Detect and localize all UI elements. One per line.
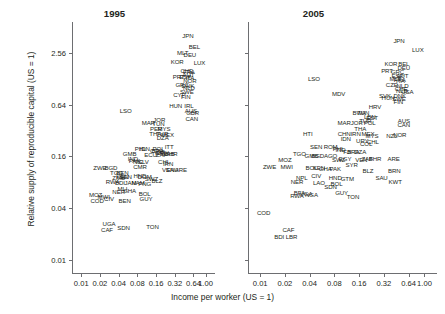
- data-point-label: JPN: [393, 36, 404, 43]
- data-point-label: FIN: [394, 98, 404, 105]
- data-point-label: LUX: [412, 45, 424, 52]
- data-point-label: NGA: [305, 191, 318, 198]
- data-point-label: BHR: [369, 154, 382, 161]
- data-point-label: MDV: [332, 89, 345, 96]
- y-axis-tick: [245, 208, 248, 209]
- data-point-label: BLZ: [363, 167, 374, 174]
- x-axis-tick-label: 0.64: [401, 279, 416, 288]
- data-point-label: BGD: [311, 152, 324, 159]
- data-point-label: BRN: [388, 167, 401, 174]
- data-point-label: ZWE: [263, 162, 276, 169]
- data-point-label: SYR: [346, 161, 358, 168]
- data-point-label: SWZ: [332, 155, 345, 162]
- x-axis-tick: [384, 274, 385, 277]
- data-point-label: HRV: [369, 102, 381, 109]
- data-point-label: ARE: [387, 154, 399, 161]
- data-point-label: NOR: [393, 131, 406, 138]
- x-axis-tick-label: 0.02: [278, 279, 293, 288]
- data-point-label: NER: [291, 178, 304, 185]
- data-point-label: CAF: [282, 226, 294, 233]
- plot-area: 0.010.020.040.080.160.320.641.00JPNLUXKO…: [0, 0, 445, 314]
- data-point-label: KWT: [389, 178, 402, 185]
- x-axis-tick: [260, 274, 261, 277]
- data-point-label: CIV: [311, 171, 321, 178]
- figure-scatter-panels: Relative supply of reproducible capital …: [0, 0, 445, 314]
- x-axis-tick-label: 0.08: [327, 279, 342, 288]
- data-point-label: LSO: [308, 74, 320, 81]
- x-axis-tick-label: 0.04: [302, 279, 317, 288]
- data-point-label: PAK: [330, 164, 341, 171]
- y-axis-tick: [245, 260, 248, 261]
- x-axis-tick-label: 0.16: [352, 279, 367, 288]
- x-axis-tick-label: 0.32: [376, 279, 391, 288]
- data-point-label: SEN: [310, 143, 322, 150]
- data-point-label: CAN: [398, 121, 411, 128]
- data-point-label: IDN: [341, 135, 351, 142]
- x-axis-tick-label: 1.00: [417, 279, 432, 288]
- y-axis-tick: [245, 53, 248, 54]
- y-axis-tick: [245, 156, 248, 157]
- data-point-label: MWI: [281, 162, 293, 169]
- data-point-label: BOL: [331, 180, 343, 187]
- y-axis-line: [248, 22, 249, 273]
- y-axis-tick: [245, 105, 248, 106]
- data-point-label: LBR: [286, 233, 298, 240]
- x-axis-tick: [310, 274, 311, 277]
- x-axis-tick: [424, 274, 425, 277]
- x-axis-tick: [409, 274, 410, 277]
- x-axis-tick: [359, 274, 360, 277]
- data-point-label: GTM: [341, 174, 354, 181]
- data-point-label: LAO: [313, 179, 325, 186]
- x-axis-tick: [334, 274, 335, 277]
- data-point-label: SAU: [375, 174, 387, 181]
- data-point-label: MAR: [337, 119, 350, 126]
- data-point-label: COL: [360, 139, 372, 146]
- data-point-label: COD: [257, 209, 270, 216]
- data-point-label: KOR: [384, 59, 397, 66]
- data-point-label: TON: [347, 193, 359, 200]
- data-point-label: BDI: [274, 233, 284, 240]
- x-axis-tick-label: 0.01: [253, 279, 268, 288]
- panel-2005: 2005 0.010.020.040.080.160.320.641.00JPN…: [0, 0, 445, 314]
- data-point-label: HTI: [303, 129, 313, 136]
- x-axis-tick: [285, 274, 286, 277]
